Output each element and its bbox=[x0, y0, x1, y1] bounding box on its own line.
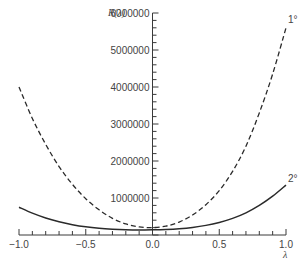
y-axis-title: R(λ) bbox=[107, 7, 126, 19]
line-chart: 1000000200000030000004000000500000060000… bbox=[0, 0, 302, 263]
y-tick-label: 4000000 bbox=[111, 82, 150, 93]
x-tick-label: 0.5 bbox=[212, 239, 226, 250]
x-axis-title: λ bbox=[282, 249, 288, 260]
x-tick-label: 0.0 bbox=[146, 239, 160, 250]
y-tick-label: 5000000 bbox=[111, 45, 150, 56]
x-axis: −1.0−0.50.00.51.0 bbox=[9, 229, 293, 250]
x-tick-label: −1.0 bbox=[9, 239, 29, 250]
x-tick-label: −0.5 bbox=[76, 239, 96, 250]
y-tick-label: 2000000 bbox=[111, 156, 150, 167]
series-label-1: 1° bbox=[288, 14, 298, 25]
series-label-2: 2° bbox=[288, 173, 298, 184]
y-tick-label: 3000000 bbox=[111, 119, 150, 130]
y-tick-label: 1000000 bbox=[111, 193, 150, 204]
y-axis: 1000000200000030000004000000500000060000… bbox=[111, 8, 159, 236]
